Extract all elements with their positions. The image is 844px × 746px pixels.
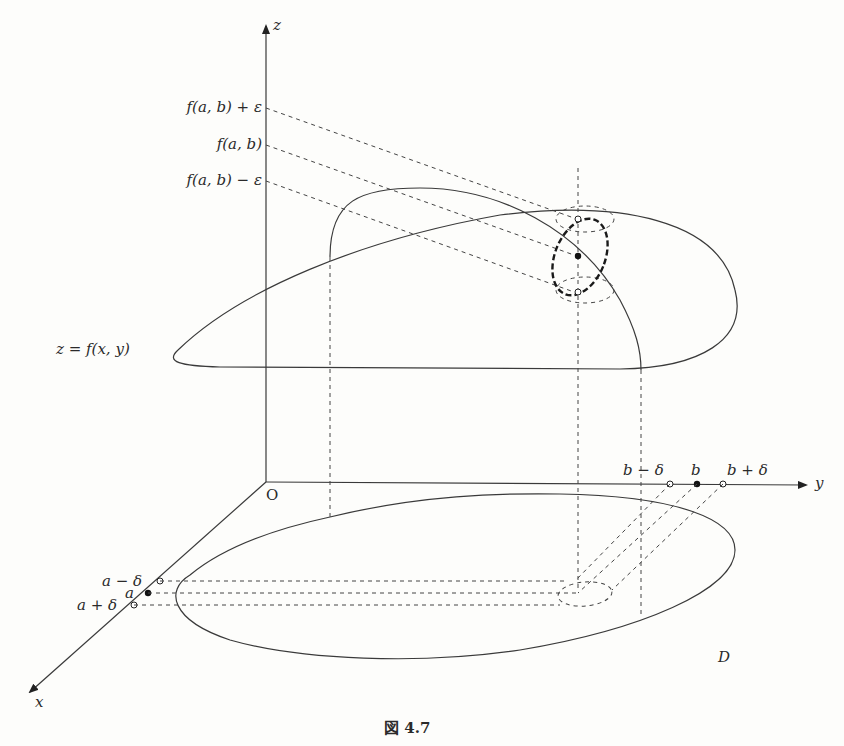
domain-D (176, 494, 735, 659)
delta-ellipse (557, 580, 613, 609)
x-axis (30, 482, 266, 692)
domain-label: D (718, 650, 730, 665)
y-tick-label-b-plus-delta: b + δ (727, 463, 768, 478)
x-axis-label: x (35, 695, 43, 710)
origin-label: O (266, 488, 278, 503)
y-axis-label: y (815, 476, 823, 491)
z-dash-plus-eps (266, 108, 574, 218)
y-tick-label-b-minus-delta: b − δ (623, 463, 664, 478)
y-dash-minus (575, 484, 670, 581)
z-dash-f (266, 145, 574, 255)
y-dash-plus (612, 484, 723, 590)
point-f-minus-eps (575, 289, 581, 295)
figure-caption: 図 4.7 (384, 716, 430, 737)
z-tick-label-f: f(a, b) (217, 137, 262, 152)
y-dash-b (578, 484, 697, 593)
point-f (575, 253, 581, 259)
diagram-svg (0, 0, 844, 746)
surface-label: z = f(x, y) (56, 342, 130, 357)
z-axis-label: z (273, 18, 281, 33)
x-tick-label-a: a (125, 586, 134, 601)
z-dash-minus-eps (266, 181, 574, 292)
x-tick-label-a-minus-delta: a − δ (102, 574, 142, 589)
z-tick-label-minus-eps: f(a, b) − ε (187, 173, 263, 188)
surface-arch (330, 188, 641, 370)
point-f-plus-eps (575, 216, 581, 222)
figure-canvas: z y x O f(a, b) + ε f(a, b) f(a, b) − ε … (0, 0, 844, 746)
y-tick-label-b: b (691, 463, 701, 478)
z-tick-label-plus-eps: f(a, b) + ε (187, 100, 263, 115)
x-tick-label-a-plus-delta: a + δ (77, 598, 117, 613)
surface-lobe (173, 210, 737, 369)
